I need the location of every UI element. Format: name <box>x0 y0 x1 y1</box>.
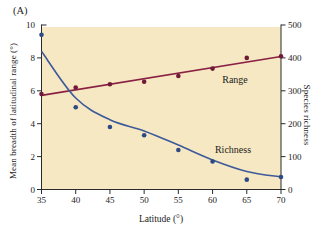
x-tick-label: 70 <box>277 195 287 205</box>
range-data-point <box>108 82 113 87</box>
series-label-richness: Richness <box>215 144 251 155</box>
y-left-tick-label: 0 <box>31 185 36 195</box>
richness-data-point <box>39 33 44 38</box>
y-left-tick-label: 6 <box>31 86 36 96</box>
y-right-tick-label: 100 <box>288 152 302 162</box>
y-left-tick-label: 4 <box>31 119 36 129</box>
series-label-range: Range <box>222 74 248 85</box>
range-data-point <box>176 74 181 79</box>
x-tick-label: 55 <box>174 195 184 205</box>
richness-data-point <box>210 159 215 164</box>
range-data-point <box>279 54 284 59</box>
y-left-tick-label: 10 <box>26 20 36 30</box>
figure-panel-a: (A) 024681001002003004005003540455055606… <box>0 0 324 233</box>
x-tick-label: 35 <box>37 195 47 205</box>
y-right-tick-label: 400 <box>288 53 302 63</box>
x-axis-title: Latitude (°) <box>139 214 183 224</box>
richness-data-point <box>279 175 284 180</box>
chart-canvas: 024681001002003004005003540455055606570 <box>0 0 324 233</box>
range-data-point <box>210 66 215 71</box>
x-tick-label: 65 <box>242 195 252 205</box>
x-tick-label: 60 <box>208 195 218 205</box>
y-right-tick-label: 500 <box>288 20 302 30</box>
richness-data-point <box>73 105 78 110</box>
richness-data-point <box>244 177 249 182</box>
x-tick-label: 40 <box>71 195 81 205</box>
x-tick-label: 45 <box>105 195 115 205</box>
y-axis-left-title: Mean breadth of latitudinal range (°) <box>8 43 18 179</box>
y-left-tick-label: 2 <box>31 152 36 162</box>
richness-data-point <box>142 133 147 138</box>
range-data-point <box>39 92 44 97</box>
range-data-point <box>142 79 147 84</box>
x-tick-label: 50 <box>140 195 150 205</box>
y-right-tick-label: 300 <box>288 86 302 96</box>
range-data-point <box>244 56 249 61</box>
y-left-tick-label: 8 <box>31 53 36 63</box>
y-axis-right-title: Species richness <box>302 85 312 146</box>
y-right-tick-label: 0 <box>288 185 293 195</box>
y-right-tick-label: 200 <box>288 119 302 129</box>
richness-data-point <box>108 125 113 130</box>
range-data-point <box>73 85 78 90</box>
richness-data-point <box>176 148 181 153</box>
